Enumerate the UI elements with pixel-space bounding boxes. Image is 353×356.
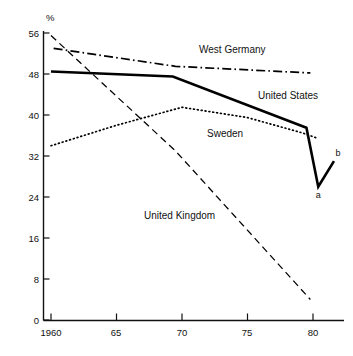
- y-tick-label: 0: [34, 315, 39, 326]
- line-chart: % 56 48 40 32 24 16 8 0: [0, 0, 353, 356]
- annotation-label-a: a: [316, 190, 321, 200]
- series-line-west-germany: [54, 48, 311, 73]
- y-tick-label: 8: [34, 274, 39, 285]
- y-tick-label: 40: [28, 110, 39, 121]
- x-tick-label: 75: [242, 327, 253, 338]
- y-tick-label: 56: [28, 28, 39, 39]
- x-tick-label: 80: [308, 327, 319, 338]
- y-tick-label: 24: [28, 192, 39, 203]
- annotation-label-b: b: [335, 148, 340, 158]
- series-labels: West Germany United States Sweden United…: [144, 44, 318, 221]
- series-line-united-kingdom: [51, 36, 310, 300]
- series-line-sweden: [51, 107, 317, 145]
- series-line-united-states: [51, 71, 334, 186]
- x-tick-label: 70: [177, 327, 188, 338]
- x-axis-tick-labels: 1960 65 70 75 80: [40, 327, 318, 338]
- y-axis-ticks: [44, 33, 50, 320]
- y-tick-label: 48: [28, 69, 39, 80]
- y-axis-tick-labels: 56 48 40 32 24 16 8 0: [28, 28, 39, 326]
- chart-container: % 56 48 40 32 24 16 8 0: [0, 0, 353, 356]
- x-axis-ticks: [51, 314, 313, 321]
- x-tick-label: 1960: [40, 327, 61, 338]
- y-tick-label: 32: [28, 151, 39, 162]
- series-label-sweden: Sweden: [207, 128, 243, 139]
- y-tick-label: 16: [28, 233, 39, 244]
- series-label-west-germany: West Germany: [199, 44, 266, 55]
- x-tick-label: 65: [111, 327, 122, 338]
- y-axis-unit-label: %: [46, 12, 55, 23]
- series-label-united-states: United States: [258, 90, 318, 101]
- point-annotations: a b: [316, 148, 341, 200]
- series-label-united-kingdom: United Kingdom: [144, 210, 215, 221]
